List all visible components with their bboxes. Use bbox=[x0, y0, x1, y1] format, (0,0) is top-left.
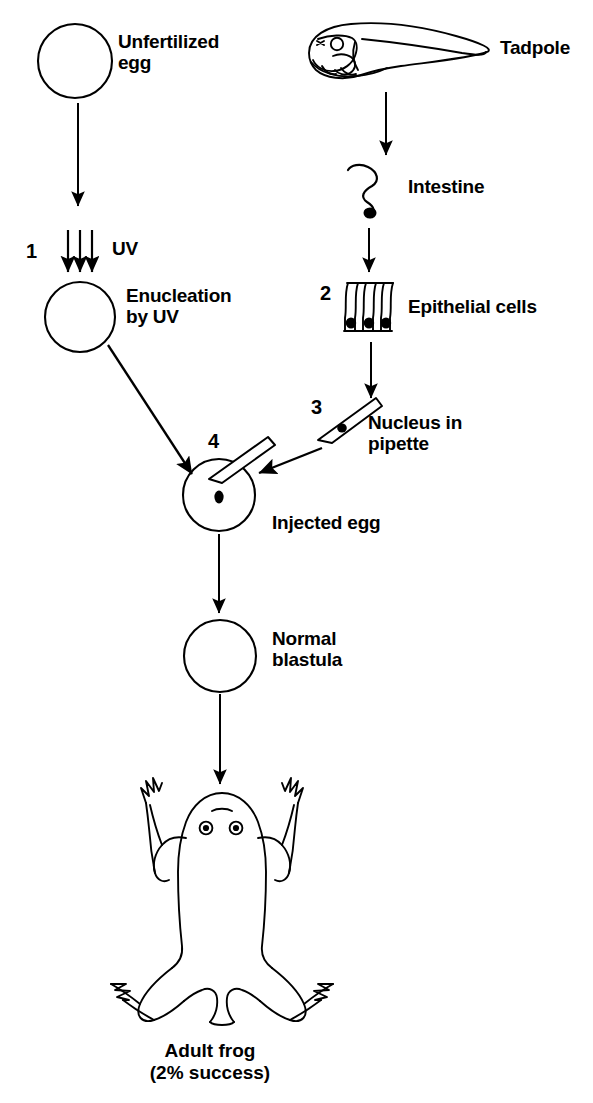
step-number-3: 3 bbox=[311, 397, 322, 417]
arrow-enucleated-to-injected bbox=[108, 345, 192, 474]
epithelial-cell-nuclei bbox=[346, 317, 391, 328]
label-uv: UV bbox=[112, 238, 138, 259]
label-normal-blastula: Normal blastula bbox=[272, 628, 342, 670]
uv-beam-arrows bbox=[68, 230, 92, 272]
caption-adult-frog: Adult frog (2% success) bbox=[0, 1040, 420, 1084]
label-epithelial-cells: Epithelial cells bbox=[408, 296, 537, 317]
figure-canvas: Unfertilized egg Tadpole 1 UV Enucleatio… bbox=[0, 0, 593, 1103]
unfertilized-egg-circle bbox=[38, 24, 112, 98]
step-number-4: 4 bbox=[208, 431, 219, 451]
label-nucleus-in-pipette: Nucleus in pipette bbox=[368, 412, 462, 454]
tadpole-icon bbox=[309, 23, 489, 78]
frog-eyes bbox=[200, 822, 243, 835]
label-enucleation-by-uv: Enucleation by UV bbox=[126, 285, 231, 327]
step-number-2: 2 bbox=[320, 283, 331, 303]
pipette-nucleus-dot bbox=[337, 423, 347, 432]
label-tadpole: Tadpole bbox=[500, 37, 570, 58]
blastula-circle bbox=[184, 620, 256, 692]
nuclear-transfer-diagram bbox=[0, 0, 593, 1103]
intestine-end-dot bbox=[364, 208, 377, 219]
injected-egg-nucleus-dot bbox=[214, 491, 223, 504]
label-intestine: Intestine bbox=[408, 176, 484, 197]
arrow-pipette-to-injected-egg bbox=[259, 448, 322, 473]
frog-icon bbox=[111, 778, 333, 1025]
step-number-1: 1 bbox=[26, 241, 37, 261]
label-unfertilized-egg: Unfertilized egg bbox=[118, 31, 219, 73]
enucleated-egg-circle bbox=[45, 282, 115, 352]
label-injected-egg: Injected egg bbox=[272, 512, 380, 533]
